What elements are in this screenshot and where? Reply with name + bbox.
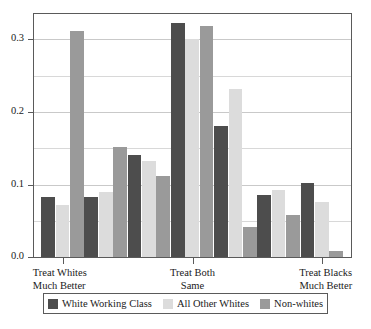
x-tick-label: Treat BothSame	[138, 267, 248, 292]
x-tick-label: Treat WhitesMuch Better	[33, 267, 143, 292]
bar-chart: 0.00.10.20.3 Treat WhitesMuch BetterTrea…	[0, 0, 371, 329]
legend-label: White Working Class	[62, 298, 152, 309]
plot-area	[33, 13, 352, 258]
x-tick-label-line1: Treat Whites	[33, 267, 143, 280]
y-tick-label: 0.1	[0, 179, 24, 189]
bar	[128, 155, 142, 257]
x-tick-mark	[63, 258, 64, 264]
x-tick-label-line1: Treat Both	[138, 267, 248, 280]
bar	[185, 39, 199, 257]
x-tick-label-line2: Same	[138, 280, 248, 293]
legend-label: All Other Whites	[177, 298, 249, 309]
bar	[243, 227, 257, 257]
legend-swatch-icon	[48, 299, 58, 309]
bars-layer	[34, 14, 351, 257]
x-tick-label: Treat BlacksMuch Better	[242, 267, 352, 292]
y-tick-label: 0.3	[0, 33, 24, 43]
bar	[70, 31, 84, 257]
bar	[286, 215, 300, 257]
legend-item[interactable]: White Working Class	[48, 298, 152, 309]
y-tick-label: 0.0	[0, 251, 24, 261]
bar	[99, 192, 113, 257]
x-tick-label-line2: Much Better	[33, 280, 143, 293]
bar	[142, 161, 156, 257]
bar	[200, 26, 214, 257]
y-tick-label: 0.2	[0, 106, 24, 116]
bar	[171, 23, 185, 257]
bar	[56, 205, 70, 257]
x-tick-label-line1: Treat Blacks	[242, 267, 352, 280]
legend-label: Non-whites	[274, 298, 323, 309]
legend-item[interactable]: Non-whites	[260, 298, 323, 309]
bar	[84, 197, 98, 257]
bar	[272, 190, 286, 257]
bar	[113, 147, 127, 257]
bar	[301, 183, 315, 257]
bar	[257, 195, 271, 257]
legend-swatch-icon	[260, 299, 270, 309]
bar	[329, 251, 343, 257]
x-tick-mark	[322, 258, 323, 264]
x-tick-label-line2: Much Better	[242, 280, 352, 293]
bar	[214, 126, 228, 257]
bar	[229, 89, 243, 257]
legend-item[interactable]: All Other Whites	[163, 298, 249, 309]
legend: White Working ClassAll Other WhitesNon-w…	[43, 293, 328, 314]
legend-swatch-icon	[163, 299, 173, 309]
bar	[41, 197, 55, 257]
bar	[315, 202, 329, 257]
x-tick-mark	[193, 258, 194, 264]
bar	[156, 176, 170, 257]
